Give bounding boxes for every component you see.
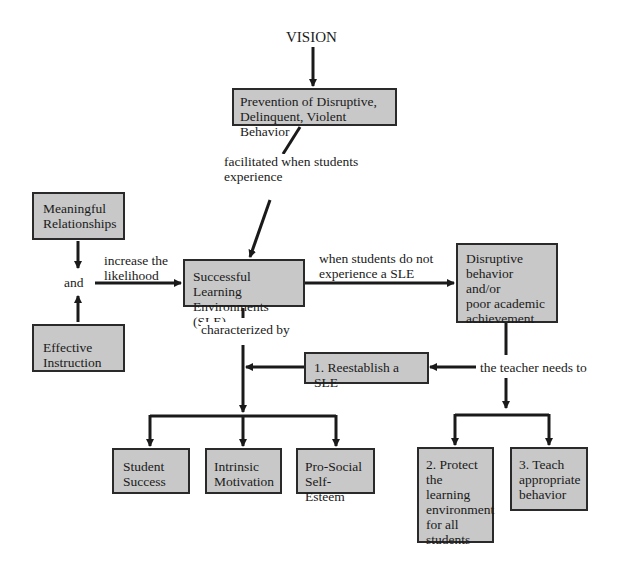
reestablish-box: 1. Reestablish a SLE <box>304 352 429 384</box>
vision-title: VISION <box>286 30 337 45</box>
intrinsic-text: Intrinsic Motivation <box>214 459 273 489</box>
disruptive-text: Disruptive behavior and/or poor academic… <box>466 251 548 326</box>
student-success-text: Student Success <box>123 459 179 489</box>
effective-text: Effective Instruction <box>43 340 114 370</box>
sle-box: Successful Learning Environments (SLE) <box>183 259 305 307</box>
when-not-label: when students do not experience a SLE <box>319 251 433 281</box>
prevention-box: Prevention of Disruptive, Delinquent, Vi… <box>232 88 397 126</box>
meaningful-text: Meaningful Relationships <box>43 201 114 231</box>
pro-social-box: Pro-Social Self-Esteem <box>296 448 375 494</box>
facilitated-label: facilitated when students experience <box>224 154 358 184</box>
disruptive-behavior-box: Disruptive behavior and/or poor academic… <box>456 243 558 323</box>
prosocial-text: Pro-Social Self-Esteem <box>305 459 366 504</box>
sle-text: Successful Learning Environments (SLE) <box>193 269 295 329</box>
increase-likelihood-label: increase the likelihood <box>104 253 168 283</box>
teacher-needs-label: the teacher needs to <box>480 360 587 375</box>
student-success-box: Student Success <box>112 448 190 494</box>
teach-text: 3. Teach appropriate behavior <box>519 457 579 502</box>
concept-diagram: VISION Prevention of Disruptive, Delinqu… <box>0 0 619 569</box>
protect-environment-box: 2. Protect the learning environment for … <box>417 447 494 543</box>
effective-instruction-box: Effective Instruction <box>32 324 125 372</box>
meaningful-relationships-box: Meaningful Relationships <box>32 192 125 240</box>
reestablish-text: 1. Reestablish a SLE <box>314 360 419 390</box>
and-label: and <box>64 275 84 290</box>
intrinsic-motivation-box: Intrinsic Motivation <box>205 448 282 494</box>
teach-behavior-box: 3. Teach appropriate behavior <box>510 447 588 511</box>
prevention-text: Prevention of Disruptive, Delinquent, Vi… <box>240 94 389 139</box>
protect-text: 2. Protect the learning environment for … <box>426 457 485 547</box>
characterized-by-label: characterized by <box>201 322 290 337</box>
